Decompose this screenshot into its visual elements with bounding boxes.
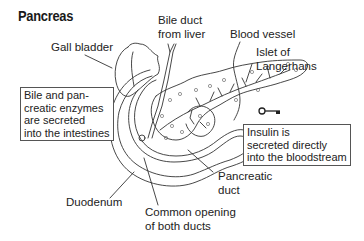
label-common-opening-line1: Common opening [145,206,236,220]
endocrine-line: secreted directly [247,139,347,152]
duodenum-outer [110,70,256,186]
label-duodenum: Duodenum [66,196,122,210]
label-common-opening-line2: of both ducts [145,220,211,234]
exocrine-line: into the intestines [24,127,110,140]
gall-bladder-pointer [85,55,112,68]
label-bile-duct-line2: from liver [158,28,205,42]
label-blood-vessel: Blood vessel [230,28,295,42]
label-pancreatic-duct-line2: duct [218,184,240,198]
exocrine-line: are secreted [24,114,110,127]
exocrine-line: Bile and pan- [24,89,110,102]
label-islet-line2: Langerhans [256,60,317,74]
label-islet-line1: Islet of [256,46,290,60]
endocrine-line: into the bloodstream [247,151,347,164]
label-gall-bladder: Gall bladder [51,41,113,55]
blood-vessel [233,42,240,120]
duodenum-inner [118,76,249,177]
label-bile-duct-line1: Bile duct [158,14,202,28]
key-icon [259,108,280,114]
bile-duct [148,44,170,138]
endocrine-line: Insulin is [247,126,347,139]
exocrine-line: creatic enzymes [24,102,110,115]
label-pancreatic-duct-line1: Pancreatic [218,170,272,184]
duodenum-pointer [110,172,134,198]
pancreatic-duct-pointer [188,150,213,172]
endocrine-info-box: Insulin is secreted directly into the bl… [243,124,351,166]
exocrine-info-box: Bile and pan- creatic enzymes are secret… [20,87,114,141]
